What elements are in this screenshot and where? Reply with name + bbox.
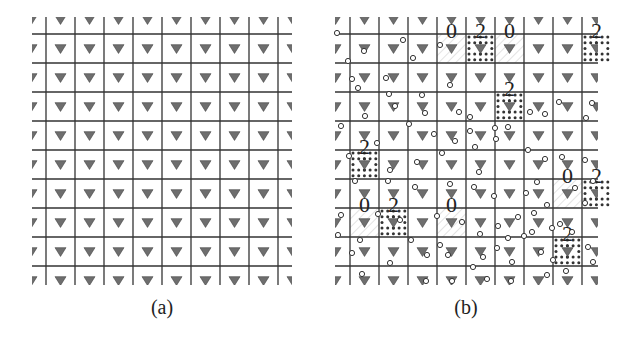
panel-b-caption: (b): [454, 296, 477, 319]
sample-point-icon: [521, 233, 526, 238]
sample-point-icon: [375, 211, 380, 216]
sample-point-icon: [583, 115, 588, 120]
triangle-marker-icon: [591, 219, 602, 228]
triangle-marker-icon: [417, 103, 428, 112]
sample-point-icon: [582, 157, 587, 162]
triangle-marker-icon: [359, 103, 370, 112]
sample-point-icon: [508, 278, 513, 283]
triangle-marker-icon: [562, 132, 573, 141]
triangle-marker-icon: [417, 45, 428, 54]
sample-point-icon: [352, 178, 357, 183]
sample-point-icon: [408, 237, 413, 242]
triangle-marker-icon: [591, 248, 602, 257]
triangle-marker-icon: [330, 161, 341, 170]
sample-point-icon: [445, 252, 450, 257]
sample-point-icon: [437, 42, 442, 47]
sample-point-icon: [472, 144, 477, 149]
triangle-marker-icon: [417, 16, 428, 25]
sample-point-icon: [410, 55, 415, 60]
triangle-marker-icon: [533, 16, 544, 25]
sample-point-icon: [338, 123, 343, 128]
sample-point-icon: [386, 91, 391, 96]
triangle-marker-icon: [591, 132, 602, 141]
triangle-marker-icon: [359, 248, 370, 257]
triangle-marker-icon: [388, 248, 399, 257]
sample-point-icon: [346, 153, 351, 158]
triangle-marker-icon: [533, 219, 544, 228]
sample-point-icon: [361, 48, 366, 53]
triangle-marker-icon: [359, 277, 370, 286]
sample-point-icon: [523, 190, 528, 195]
sample-point-icon: [400, 37, 405, 42]
triangle-marker-icon: [330, 219, 341, 228]
triangle-marker-icon: [330, 248, 341, 257]
sample-point-icon: [362, 113, 367, 118]
sample-point-icon: [437, 242, 442, 247]
sample-point-icon: [406, 121, 411, 126]
cell-count-label: 0: [562, 163, 573, 188]
triangle-marker-icon: [417, 190, 428, 199]
sample-point-icon: [439, 150, 444, 155]
sample-point-icon: [470, 264, 475, 269]
triangle-marker-icon: [388, 74, 399, 83]
sample-point-icon: [385, 178, 390, 183]
sample-point-icon: [434, 213, 439, 218]
cell-count-label: 2: [504, 76, 515, 101]
triangle-marker-icon: [533, 132, 544, 141]
triangle-marker-icon: [446, 161, 457, 170]
sample-point-icon: [572, 185, 577, 190]
sample-point-icon: [422, 110, 427, 115]
sample-point-icon: [515, 214, 520, 219]
triangle-marker-icon: [533, 74, 544, 83]
sample-point-icon: [447, 181, 452, 186]
triangle-marker-icon: [359, 161, 370, 170]
sample-point-icon: [424, 252, 429, 257]
sample-point-icon: [383, 75, 388, 80]
panel-b-grid: 020222020202: [0, 0, 626, 342]
cell-count-label: 0: [504, 18, 515, 43]
cell-count-label: 2: [359, 134, 370, 159]
sample-point-icon: [414, 159, 419, 164]
triangle-marker-icon: [330, 103, 341, 112]
sample-point-icon: [590, 178, 595, 183]
sample-point-icon: [452, 138, 457, 143]
sample-point-icon: [590, 259, 595, 264]
sample-point-icon: [471, 184, 476, 189]
triangle-marker-icon: [533, 45, 544, 54]
triangle-marker-icon: [330, 45, 341, 54]
sample-point-icon: [374, 140, 379, 145]
sample-point-icon: [569, 229, 574, 234]
sample-point-icon: [525, 147, 530, 152]
triangle-marker-icon: [359, 16, 370, 25]
sample-point-icon: [423, 278, 428, 283]
sample-point-icon: [544, 202, 549, 207]
sample-point-icon: [419, 92, 424, 97]
sample-point-icon: [559, 154, 564, 159]
triangle-marker-icon: [475, 219, 486, 228]
panel-a-caption: (a): [151, 296, 173, 319]
sample-point-icon: [509, 259, 514, 264]
sample-point-icon: [412, 184, 417, 189]
triangle-marker-icon: [388, 45, 399, 54]
triangle-marker-icon: [504, 190, 515, 199]
cell-count-label: 0: [446, 192, 457, 217]
triangle-marker-icon: [533, 161, 544, 170]
sample-point-icon: [387, 167, 392, 172]
triangle-marker-icon: [417, 219, 428, 228]
triangle-marker-icon: [562, 74, 573, 83]
sample-point-icon: [355, 85, 360, 90]
sample-point-icon: [505, 235, 510, 240]
sample-point-icon: [467, 128, 472, 133]
triangle-marker-icon: [591, 190, 602, 199]
triangle-marker-icon: [504, 103, 515, 112]
sample-point-icon: [563, 268, 568, 273]
sample-point-icon: [542, 156, 547, 161]
sample-point-icon: [585, 244, 590, 249]
sample-point-icon: [345, 58, 350, 63]
sample-point-icon: [531, 210, 536, 215]
sample-point-icon: [550, 257, 555, 262]
triangle-marker-icon: [475, 103, 486, 112]
triangle-marker-icon: [388, 132, 399, 141]
sample-point-icon: [459, 219, 464, 224]
cell-count-label: 2: [475, 18, 486, 43]
